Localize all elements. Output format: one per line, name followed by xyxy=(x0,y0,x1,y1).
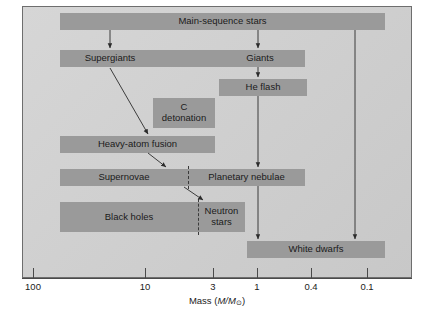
axis-title-variable: M/M xyxy=(217,295,235,306)
axis-tick-3 xyxy=(257,268,258,278)
axis-tick-1 xyxy=(145,268,146,278)
mass-axis-line xyxy=(22,278,412,279)
axis-tick-label-10: 10 xyxy=(140,281,151,292)
axis-tick-0 xyxy=(33,268,34,278)
stage-box-heavy-atom-fusion: Heavy-atom fusion xyxy=(60,136,215,153)
axis-title-suffix: ) xyxy=(242,295,245,306)
axis-title-prefix: Mass ( xyxy=(189,295,218,306)
mass-axis-title: Mass (M/M⊙) xyxy=(0,295,434,307)
stage-box-c-detonation: C detonation xyxy=(153,98,215,128)
stage-box-white-dwarfs: White dwarfs xyxy=(247,241,385,258)
axis-tick-4 xyxy=(311,268,312,278)
stage-label-black-holes: Black holes xyxy=(60,202,198,232)
axis-tick-label-0.4: 0.4 xyxy=(304,281,317,292)
axis-tick-label-100: 100 xyxy=(25,281,41,292)
axis-tick-label-0.1: 0.1 xyxy=(360,281,373,292)
stage-box-main-sequence-stars: Main-sequence stars xyxy=(60,13,385,30)
stage-label-planetary-nebulae: Planetary nebulae xyxy=(188,169,305,186)
stage-label-supernovae: Supernovae xyxy=(60,169,188,186)
axis-tick-5 xyxy=(367,268,368,278)
stage-label-giants: Giants xyxy=(215,50,305,67)
stage-label-supergiants: Supergiants xyxy=(60,50,160,67)
axis-tick-2 xyxy=(213,268,214,278)
stage-box-he-flash: He flash xyxy=(219,79,307,96)
stellar-evolution-diagram: Supergiants Giants Supernovae Planetary … xyxy=(0,0,434,312)
axis-tick-label-1: 1 xyxy=(254,281,259,292)
axis-tick-label-3: 3 xyxy=(210,281,215,292)
stage-label-neutron-stars: Neutron stars xyxy=(198,202,245,232)
